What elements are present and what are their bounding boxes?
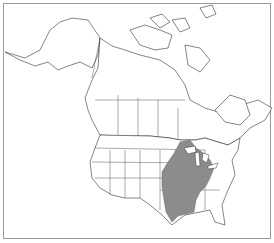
range-map [0,0,274,243]
arctic-islands [130,25,172,50]
canada [85,38,272,145]
alaska [5,18,100,70]
land-outlines [5,5,272,225]
north-america-map [0,0,274,243]
